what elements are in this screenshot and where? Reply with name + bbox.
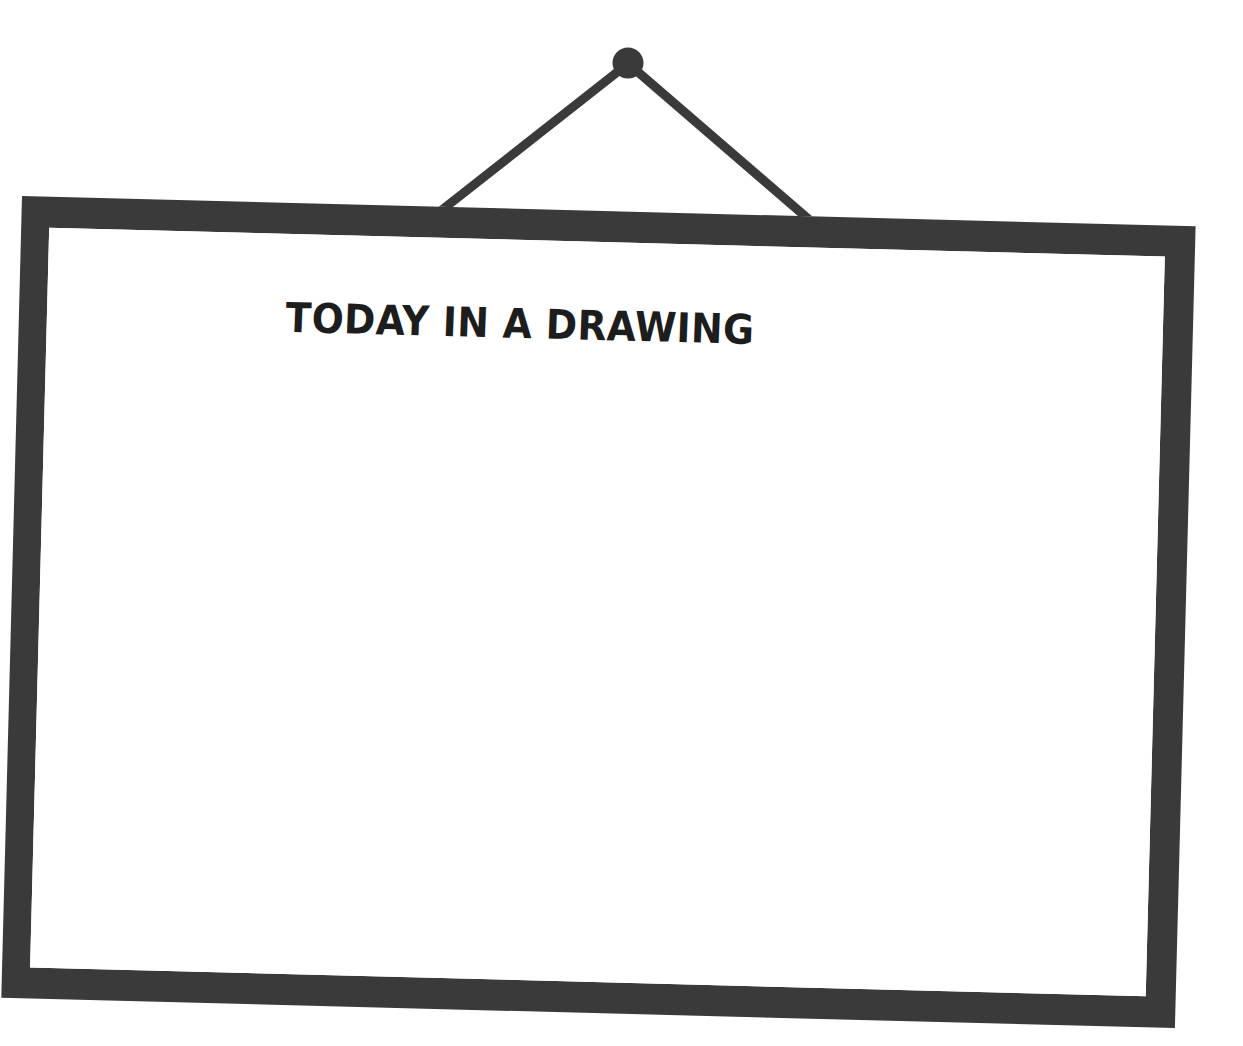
hanging-wire-right-icon: [631, 66, 813, 223]
hanging-wire-left-icon: [438, 66, 625, 213]
whiteboard-frame: TODAY IN A DRAWING: [1, 196, 1195, 1028]
board-title: TODAY IN A DRAWING: [91, 293, 1119, 360]
board-body-text[interactable]: [30, 358, 1161, 997]
whiteboard-scene: TODAY IN A DRAWING: [0, 0, 1243, 1046]
whiteboard-surface[interactable]: TODAY IN A DRAWING: [30, 228, 1165, 997]
wall-hook-knob-icon: [613, 48, 644, 79]
